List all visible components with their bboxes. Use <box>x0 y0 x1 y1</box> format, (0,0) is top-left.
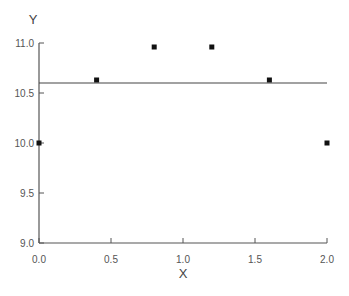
data-point <box>94 78 99 83</box>
x-tick-label: 1.0 <box>176 254 190 265</box>
y-tick-label: 10.5 <box>15 88 35 99</box>
axes <box>39 43 327 243</box>
data-point <box>37 141 42 146</box>
y-tick-label: 11.0 <box>15 38 34 49</box>
data-point <box>209 45 214 50</box>
y-tick-label: 10.0 <box>15 138 35 149</box>
data-point <box>325 141 330 146</box>
x-tick-label: 2.0 <box>320 254 334 265</box>
ticks: 9.09.510.010.511.00.00.51.01.52.0 <box>15 38 335 265</box>
y-axis-label: Y <box>29 12 38 27</box>
x-axis-label: X <box>179 266 188 281</box>
scatter-chart: 9.09.510.010.511.00.00.51.01.52.0 Y X <box>0 0 349 296</box>
y-tick-label: 9.5 <box>20 188 34 199</box>
x-tick-label: 1.5 <box>248 254 262 265</box>
data-points <box>37 45 330 146</box>
data-point <box>152 45 157 50</box>
x-tick-label: 0.0 <box>32 254 46 265</box>
x-tick-label: 0.5 <box>104 254 118 265</box>
y-tick-label: 9.0 <box>20 238 34 249</box>
data-point <box>267 78 272 83</box>
